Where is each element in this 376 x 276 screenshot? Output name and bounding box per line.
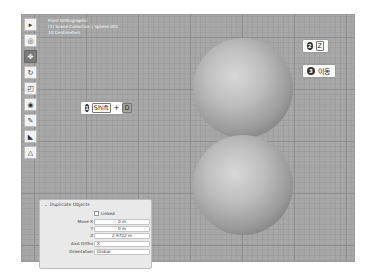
scale-tool-icon[interactable]: ◰ (24, 82, 37, 95)
key-separator: + (114, 104, 120, 112)
step-number: 1 (85, 104, 89, 112)
sphere-original[interactable] (193, 38, 293, 138)
cursor-tool-icon[interactable]: ◎ (24, 34, 37, 47)
add-object-tool-icon[interactable]: △ (24, 146, 37, 159)
move-tool-icon[interactable]: ✥ (24, 50, 37, 63)
select-tool-icon[interactable]: ▸ (24, 18, 37, 31)
key-z: Z (316, 41, 324, 51)
step-number: 3 (307, 67, 315, 75)
rotate-tool-icon[interactable]: ↻ (24, 66, 37, 79)
tool-shelf: ▸ ◎ ✥ ↻ ◰ ◉ ✎ ◣ △ (24, 18, 37, 162)
annotate-tool-icon[interactable]: ✎ (24, 114, 37, 127)
move-x-label: Move X (78, 219, 93, 225)
move-z-field[interactable]: 2.9722 m (94, 233, 150, 239)
sphere-duplicate[interactable] (193, 135, 293, 235)
key-d: D (122, 103, 131, 113)
linked-label: Linked (101, 211, 115, 217)
step-number: 2 (307, 42, 313, 50)
collapse-chevron-icon[interactable]: ⌄ (44, 202, 48, 207)
callout-step-1: 1 Shift + D (80, 101, 124, 115)
axis-ortho-select[interactable]: X (94, 241, 150, 247)
panel-title: Duplicate Objects (50, 202, 90, 207)
orientation-label: Orientation (69, 249, 93, 255)
move-y-field[interactable]: 0 m (94, 226, 150, 232)
transform-tool-icon[interactable]: ◉ (24, 98, 37, 111)
move-x-field[interactable]: 0 m (94, 219, 150, 225)
3d-viewport[interactable]: Front Orthographic (1) Scene Collection … (21, 14, 355, 262)
callout-step-3: 3 이동 (302, 64, 336, 78)
panel-header[interactable]: ⌄ Duplicate Objects (40, 200, 151, 209)
axis-ortho-label: Axis Ortho (71, 241, 93, 247)
z-label: Z (90, 233, 93, 239)
duplicate-objects-panel: ⌄ Duplicate Objects Linked Move X 0 m Y … (39, 199, 152, 269)
viewport-info: Front Orthographic (1) Scene Collection … (48, 18, 118, 36)
key-shift: Shift (92, 103, 111, 113)
callout-step-2: 2 Z (302, 39, 329, 53)
measure-tool-icon[interactable]: ◣ (24, 130, 37, 143)
orientation-select[interactable]: Global (94, 249, 150, 255)
grid-scale: 10 Centimeters (48, 30, 118, 36)
y-label: Y (90, 226, 93, 232)
move-label: 이동 (318, 66, 330, 76)
linked-checkbox[interactable] (94, 211, 99, 216)
